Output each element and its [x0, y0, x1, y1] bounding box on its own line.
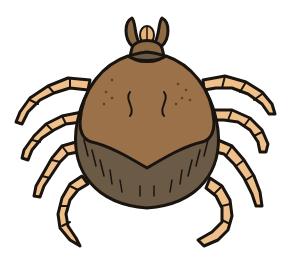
tick-illustration [0, 0, 293, 273]
